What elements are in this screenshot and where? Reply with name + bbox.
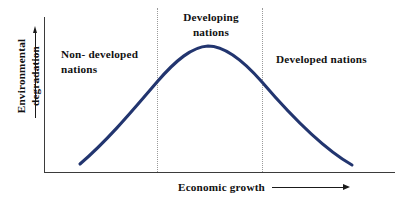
region-divider-2 [262, 8, 263, 172]
x-axis-label: Economic growth [178, 180, 265, 194]
environmental-kuznets-curve-figure: Environmental degradation Non- developed… [0, 0, 404, 205]
x-axis-line [44, 172, 395, 173]
region-label-developing: Developing nations [160, 10, 262, 39]
y-axis-label-line2: degradation [28, 1, 42, 151]
x-axis-direction-arrow-icon [272, 184, 350, 192]
region-divider-1 [157, 8, 158, 172]
y-axis-line [44, 17, 45, 173]
x-arrow-shaft [272, 187, 343, 188]
y-axis-label: Environmental degradation [14, 1, 42, 151]
region-label-non-developed: Non- developed nations [61, 47, 157, 76]
y-axis-label-line1: Environmental [14, 1, 28, 151]
region-label-developed: Developed nations [276, 52, 401, 67]
x-arrow-head-icon [343, 184, 350, 190]
